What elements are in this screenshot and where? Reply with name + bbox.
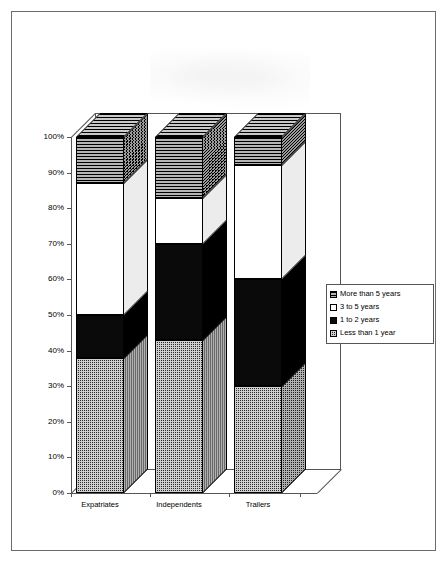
bar-segment[interactable] bbox=[76, 137, 124, 183]
bar-trailers[interactable] bbox=[234, 137, 282, 493]
x-tick-mark bbox=[150, 493, 151, 497]
chart-legend: More than 5 years 3 to 5 years 1 to 2 ye… bbox=[326, 284, 434, 344]
y-tick-label: 90% bbox=[28, 169, 64, 177]
y-tick-label: 30% bbox=[28, 382, 64, 390]
floor-right-diagonal bbox=[317, 469, 342, 494]
y-tick-label: 70% bbox=[28, 240, 64, 248]
y-tick-mark bbox=[67, 386, 72, 387]
bar-segment[interactable] bbox=[234, 137, 282, 165]
y-tick-label: 100% bbox=[28, 133, 64, 141]
legend-swatch-icon-more-than-5-years bbox=[330, 291, 337, 298]
bar-segment[interactable] bbox=[234, 386, 282, 493]
x-axis-line bbox=[71, 493, 317, 494]
bar-segment[interactable] bbox=[155, 137, 203, 198]
bar-segment[interactable] bbox=[234, 165, 282, 279]
y-tick-mark bbox=[67, 351, 72, 352]
bar-segment[interactable] bbox=[76, 183, 124, 315]
legend-item-3-to-5-years[interactable]: 3 to 5 years bbox=[330, 301, 430, 313]
y-tick-label: 10% bbox=[28, 453, 64, 461]
y-tick-label: 40% bbox=[28, 347, 64, 355]
y-tick-mark bbox=[67, 173, 72, 174]
x-axis-label-expatriates: Expatriates bbox=[60, 500, 140, 509]
bar-segment-side-face bbox=[124, 159, 148, 315]
bar-independents[interactable] bbox=[155, 137, 203, 493]
legend-swatch-icon-less-than-1-year bbox=[330, 330, 337, 337]
y-tick-label: 20% bbox=[28, 418, 64, 426]
bar-segment[interactable] bbox=[155, 244, 203, 340]
legend-item-less-than-1-year[interactable]: Less than 1 year bbox=[330, 327, 430, 339]
legend-item-1-to-2-years[interactable]: 1 to 2 years bbox=[330, 314, 430, 326]
legend-swatch-icon-3-to-5-years bbox=[330, 304, 337, 311]
bar-segment-side-face bbox=[124, 334, 148, 493]
y-tick-mark bbox=[67, 457, 72, 458]
legend-label: Less than 1 year bbox=[340, 329, 395, 337]
y-tick-mark bbox=[67, 422, 72, 423]
y-tick-mark bbox=[67, 244, 72, 245]
y-tick-label: 0% bbox=[28, 489, 64, 497]
legend-label: More than 5 years bbox=[340, 290, 400, 298]
y-tick-mark bbox=[67, 315, 72, 316]
y-tick-mark bbox=[67, 208, 72, 209]
y-tick-label: 80% bbox=[28, 204, 64, 212]
legend-item-more-than-5-years[interactable]: More than 5 years bbox=[330, 288, 430, 300]
legend-label: 3 to 5 years bbox=[340, 303, 379, 311]
y-tick-label: 50% bbox=[28, 311, 64, 319]
bar-segment[interactable] bbox=[155, 198, 203, 244]
bar-segment[interactable] bbox=[234, 279, 282, 386]
bar-segment[interactable] bbox=[76, 315, 124, 358]
bar-segment[interactable] bbox=[155, 340, 203, 493]
bar-segment[interactable] bbox=[76, 358, 124, 493]
x-tick-mark bbox=[300, 493, 301, 497]
y-tick-label: 60% bbox=[28, 275, 64, 283]
legend-swatch-icon-1-to-2-years bbox=[330, 317, 337, 324]
y-tick-mark bbox=[67, 279, 72, 280]
y-tick-mark bbox=[67, 137, 72, 138]
bar-segment-side-face bbox=[203, 316, 227, 493]
bar-expatriates[interactable] bbox=[76, 137, 124, 493]
x-tick-mark bbox=[71, 493, 72, 497]
x-axis-label-trailers: Trailers bbox=[218, 500, 298, 509]
x-tick-mark bbox=[229, 493, 230, 497]
x-axis-label-independents: Independents bbox=[139, 500, 219, 509]
legend-label: 1 to 2 years bbox=[340, 316, 379, 324]
